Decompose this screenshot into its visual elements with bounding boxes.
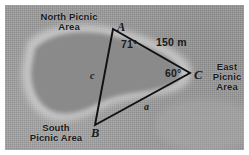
- angle-label-a: 71°: [121, 39, 137, 50]
- east-picnic-area-label: East Picnic Area: [204, 62, 244, 92]
- south-picnic-area-label: South Picnic Area: [13, 123, 99, 143]
- terrain-shading: [155, 99, 244, 150]
- north-picnic-area-label: North Picnic Area: [27, 12, 111, 32]
- vertex-label-c: C: [194, 69, 202, 82]
- angle-label-c: 60°: [165, 68, 181, 79]
- side-label-a: a: [144, 102, 149, 113]
- vertex-label-a: A: [117, 21, 125, 34]
- side-label-c: c: [90, 71, 94, 82]
- aerial-map-background: North Picnic Area South Picnic Area East…: [5, 5, 244, 150]
- picnic-area-triangle-figure: North Picnic Area South Picnic Area East…: [0, 0, 249, 155]
- side-length-label-b: 150 m: [156, 37, 187, 48]
- vertex-label-b: B: [91, 127, 99, 140]
